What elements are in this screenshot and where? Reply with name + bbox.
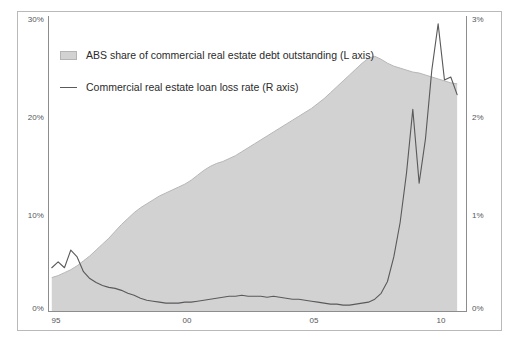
legend-label-loss-rate: Commercial real estate loan loss rate (R… (86, 81, 298, 93)
left-tick-10: 10% (18, 211, 44, 220)
area-swatch-icon (60, 51, 77, 60)
chart-legend: ABS share of commercial real estate debt… (60, 44, 374, 98)
line-swatch-icon (60, 83, 77, 92)
x-tick-05: 05 (302, 316, 326, 325)
left-tick-0: 0% (18, 304, 44, 313)
x-tick-95: 95 (44, 316, 68, 325)
x-tick-00: 00 (175, 316, 199, 325)
legend-item-loss-rate: Commercial real estate loan loss rate (R… (60, 76, 374, 98)
right-tick-2: 2% (472, 113, 498, 122)
x-tick-10: 10 (429, 316, 453, 325)
right-axis-line (466, 16, 467, 312)
left-tick-20: 20% (18, 113, 44, 122)
legend-label-abs-share: ABS share of commercial real estate debt… (86, 49, 374, 61)
legend-item-abs-share: ABS share of commercial real estate debt… (60, 44, 374, 66)
bottom-axis-line (48, 311, 467, 312)
right-tick-0: 0% (472, 304, 498, 313)
right-tick-3: 3% (472, 15, 498, 24)
right-tick-1: 1% (472, 211, 498, 220)
left-tick-30: 30% (18, 15, 44, 24)
chart-figure: 30% 20% 10% 0% 3% 2% 1% 0% 95 00 05 10 A… (0, 0, 519, 352)
